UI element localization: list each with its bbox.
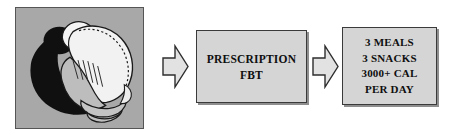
prescription-box: PRESCRIPTION FBT: [196, 30, 307, 103]
arrow-right-icon: [312, 44, 339, 89]
arrow-right-icon: [162, 44, 189, 89]
arrow-right-glyph: [312, 44, 339, 89]
prescription-line-2: FBT: [240, 67, 263, 83]
prescription-line-1: PRESCRIPTION: [207, 51, 296, 67]
regimen-box: 3 MEALS 3 SNACKS 3000+ CAL PER DAY: [342, 27, 437, 105]
regimen-line-1: 3 MEALS: [365, 35, 414, 51]
arrow-right-path: [163, 46, 188, 87]
flowchart-figure: PRESCRIPTION FBT 3 MEALS 3 SNACKS 3000+ …: [0, 0, 452, 135]
regimen-line-3: 3000+ CAL: [361, 66, 417, 82]
regimen-line-4: PER DAY: [365, 82, 414, 98]
arrow-right-path: [313, 46, 338, 87]
regimen-line-2: 3 SNACKS: [362, 51, 416, 67]
curled-figure-drawing: [16, 8, 143, 128]
curled-figure-illustration-panel: [15, 7, 144, 129]
arrow-right-glyph: [162, 44, 189, 89]
